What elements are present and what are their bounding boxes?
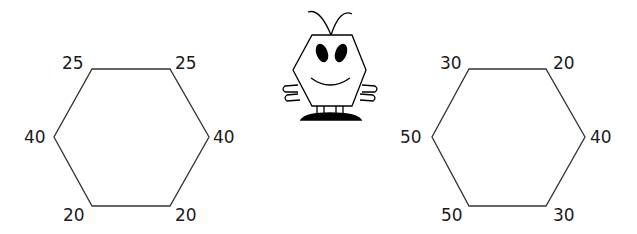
right-hexagon-label-right: 40 (590, 129, 612, 146)
left-hexagon-label-bottom-left: 20 (63, 207, 85, 224)
right-hexagon-label-top-left: 30 (440, 55, 462, 72)
hexagon-bug-character-icon (283, 11, 377, 120)
right-hexagon-label-left: 50 (400, 129, 422, 146)
left-hexagon-label-left: 40 (24, 129, 46, 146)
diagram-canvas (0, 0, 637, 234)
left-hexagon-label-bottom-right: 20 (175, 207, 197, 224)
left-hexagon-label-top-left: 25 (62, 55, 84, 72)
left-hexagon-label-right: 40 (213, 129, 235, 146)
right-hexagon-label-bottom-right: 30 (553, 207, 575, 224)
right-hexagon-label-top-right: 20 (553, 55, 575, 72)
left-hexagon-label-top-right: 25 (175, 55, 197, 72)
right-hexagon-label-bottom-left: 50 (441, 207, 463, 224)
right-hexagon (432, 69, 585, 206)
left-hexagon (54, 69, 209, 206)
